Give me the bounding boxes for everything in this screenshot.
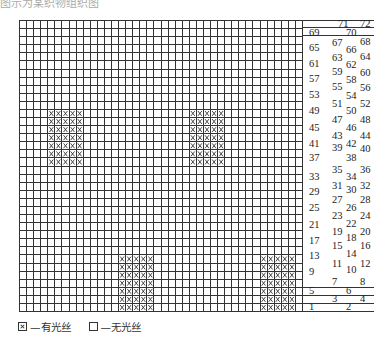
- pick-number-label: 55: [332, 82, 343, 93]
- cross-mark-icon: [134, 297, 138, 302]
- cross-mark-icon: [120, 305, 124, 310]
- pick-number-label: 27: [332, 195, 343, 206]
- cross-mark-icon: [71, 160, 75, 165]
- cross-mark-icon: [283, 265, 287, 270]
- cross-mark-icon: [283, 305, 287, 310]
- cross-mark-icon: [64, 127, 68, 132]
- pick-number-label: 32: [360, 181, 371, 192]
- cross-mark-icon: [219, 127, 223, 132]
- cross-mark-icon: [191, 135, 195, 140]
- cross-mark-icon: [127, 273, 131, 278]
- pick-number-label: 30: [346, 185, 357, 196]
- cross-mark-icon: [49, 143, 53, 148]
- cross-mark-icon: [120, 265, 124, 270]
- cross-mark-icon: [71, 143, 75, 148]
- pick-number-label: 13: [309, 251, 320, 262]
- pick-number-label: 20: [360, 227, 371, 238]
- cross-mark-icon: [276, 281, 280, 286]
- cross-mark-icon: [78, 143, 82, 148]
- cross-mark-icon: [64, 160, 68, 165]
- cross-mark-icon: [198, 135, 202, 140]
- cross-mark-icon: [283, 281, 287, 286]
- cross-mark-icon: [290, 273, 294, 278]
- pick-number-label: 36: [360, 165, 371, 176]
- pick-number-label: 49: [309, 106, 320, 117]
- cross-mark-icon: [290, 257, 294, 262]
- cross-mark-icon: [56, 127, 60, 132]
- cross-mark-icon: [78, 119, 82, 124]
- cross-mark-icon: [64, 151, 68, 156]
- cross-mark-icon: [198, 119, 202, 124]
- cross-mark-icon: [134, 281, 138, 286]
- cross-mark-icon: [64, 135, 68, 140]
- cross-mark-icon: [127, 297, 131, 302]
- pick-number-label: 22: [346, 219, 357, 230]
- pick-number-label: 7: [332, 277, 337, 288]
- pick-number-label: 61: [309, 59, 320, 70]
- pick-number-label: 59: [332, 67, 343, 78]
- cross-mark-icon: [127, 305, 131, 310]
- cross-mark-icon: [141, 305, 145, 310]
- cross-mark-icon: [290, 305, 294, 310]
- pick-number-label: 17: [309, 236, 320, 247]
- cross-mark-icon: [71, 135, 75, 140]
- pick-number-label: 1: [309, 302, 314, 313]
- cross-mark-icon: [78, 135, 82, 140]
- cross-mark-icon: [290, 297, 294, 302]
- pick-number-label: 18: [346, 233, 357, 244]
- pick-number-label: 67: [332, 38, 343, 49]
- pick-number-label: 60: [360, 68, 371, 79]
- pick-number-label: 38: [346, 153, 357, 164]
- cross-mark-icon: [134, 305, 138, 310]
- pick-number-label: 39: [332, 143, 343, 154]
- cross-mark-icon: [134, 289, 138, 294]
- cross-mark-icon: [205, 143, 209, 148]
- cross-mark-icon: [78, 111, 82, 116]
- pick-number-label: 2: [346, 302, 351, 313]
- cross-mark-icon: [120, 289, 124, 294]
- cross-mark-icon: [262, 297, 266, 302]
- pick-number-label: 57: [309, 74, 320, 85]
- cross-mark-icon: [269, 281, 273, 286]
- cross-mark-icon: [269, 265, 273, 270]
- pick-number-label: 24: [360, 211, 371, 222]
- cross-mark-icon: [78, 160, 82, 165]
- cross-mark-icon: [219, 135, 223, 140]
- cross-mark-icon: [148, 305, 152, 310]
- cross-mark-icon: [148, 289, 152, 294]
- cross-mark-icon: [219, 143, 223, 148]
- cross-mark-icon: [141, 281, 145, 286]
- pick-number-label: 54: [346, 91, 357, 102]
- cross-mark-icon: [49, 127, 53, 132]
- pick-number-label: 19: [332, 227, 343, 238]
- cross-mark-icon: [212, 127, 216, 132]
- cross-mark-icon: [120, 297, 124, 302]
- pick-number-label: 11: [332, 259, 342, 270]
- pick-number-label: 6: [346, 286, 351, 297]
- cross-mark-icon: [191, 119, 195, 124]
- cross-mark-icon: [148, 281, 152, 286]
- cross-mark-icon: [148, 265, 152, 270]
- cross-mark-icon: [219, 119, 223, 124]
- cross-mark-icon: [49, 135, 53, 140]
- cross-mark-icon: [269, 289, 273, 294]
- cross-mark-icon: [205, 160, 209, 165]
- cross-mark-icon: [141, 289, 145, 294]
- cross-mark-icon: [283, 273, 287, 278]
- cross-mark-icon: [191, 111, 195, 116]
- pick-number-label: 42: [346, 139, 357, 150]
- cross-mark-icon: [148, 273, 152, 278]
- cross-mark-icon: [262, 281, 266, 286]
- cross-mark-icon: [141, 257, 145, 262]
- cross-mark-icon: [56, 151, 60, 156]
- pick-number-label: 69: [309, 28, 320, 39]
- cross-mark-icon: [262, 305, 266, 310]
- cross-mark-icon: [205, 135, 209, 140]
- cross-mark-icon: [49, 160, 53, 165]
- pick-number-label: 23: [332, 211, 343, 222]
- pick-number-label: 29: [309, 187, 320, 198]
- cross-mark-icon: [78, 127, 82, 132]
- cross-mark-icon: [283, 289, 287, 294]
- cross-mark-icon: [127, 281, 131, 286]
- cross-mark-icon: [71, 127, 75, 132]
